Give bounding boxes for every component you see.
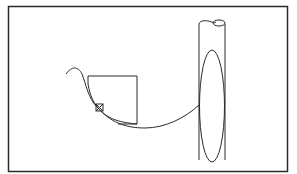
long-ellipse	[200, 50, 225, 162]
tube-cylinder	[199, 20, 225, 160]
wire-curve-inner	[88, 84, 137, 124]
wire-curve	[66, 68, 199, 128]
diagram-canvas	[0, 0, 297, 174]
diagram-frame	[9, 7, 288, 172]
square-outline	[88, 76, 137, 124]
